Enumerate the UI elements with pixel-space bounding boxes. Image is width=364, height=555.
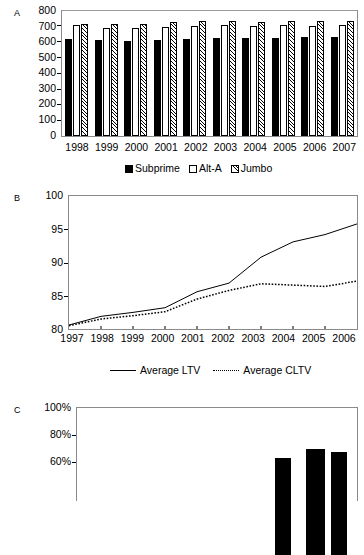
- panel-a-xtick-2006: 2006: [300, 142, 330, 153]
- panel-b-xtick-2000: 2000: [148, 333, 178, 344]
- bar-jumbo: [140, 24, 147, 136]
- panel-b-plot-area: [68, 195, 358, 330]
- panel-a-xtick-1998: 1998: [62, 142, 92, 153]
- bar-alt-a: [132, 28, 139, 136]
- panel-a-ytick-0: 0: [20, 130, 56, 141]
- panel-a-xtick-2007: 2007: [329, 142, 359, 153]
- bar-subprime: [183, 39, 190, 136]
- bar-subprime: [301, 37, 308, 136]
- legend-label-alt-a: Alt-A: [199, 163, 222, 174]
- panel-a-xtick-1999: 1999: [92, 142, 122, 153]
- panel-c-ytick-60: 60%: [32, 456, 71, 467]
- panel-b-ytick-100: 100: [26, 190, 63, 201]
- bar-alt-a: [191, 26, 198, 136]
- panel-b-line-chart: [69, 196, 357, 329]
- bar-alt-a: [280, 25, 287, 136]
- solid-line-icon: [110, 370, 136, 371]
- dotted-line-icon: [213, 370, 239, 371]
- panel-c-bars: [77, 408, 357, 501]
- panel-c-bar: [275, 458, 291, 555]
- panel-a-ytick-400: 400: [20, 67, 56, 78]
- bar-jumbo: [347, 21, 354, 136]
- panel-a-bars: [62, 11, 357, 136]
- bar-subprime: [95, 40, 102, 136]
- panel-b-xtick-1997: 1997: [57, 333, 87, 344]
- bar-alt-a: [221, 25, 228, 136]
- panel-a-xtick-2002: 2002: [181, 142, 211, 153]
- panel-c-bar: [331, 452, 347, 555]
- panel-a-ytick-500: 500: [20, 52, 56, 63]
- bar-alt-a: [103, 28, 110, 136]
- panel-b-xtick-2003: 2003: [238, 333, 268, 344]
- panel-a-legend: Subprime Alt-A Jumbo: [125, 163, 272, 174]
- legend-label-average-ltv: Average LTV: [140, 365, 200, 376]
- bar-jumbo: [199, 21, 206, 136]
- bar-jumbo: [81, 24, 88, 137]
- panel-c-letter: C: [14, 406, 21, 415]
- panel-a-ytick-100: 100: [20, 114, 56, 125]
- bar-jumbo: [258, 22, 265, 136]
- bar-subprime: [242, 38, 249, 136]
- panel-a-ytick-700: 700: [20, 21, 56, 32]
- panel-b-xtick-2006: 2006: [329, 333, 359, 344]
- panel-b-ytick-95: 95: [26, 224, 63, 235]
- legend-item-alt-a[interactable]: Alt-A: [189, 163, 222, 174]
- bar-alt-a: [250, 26, 257, 136]
- panel-b-xtick-2005: 2005: [299, 333, 329, 344]
- panel-b-xtick-2004: 2004: [268, 333, 298, 344]
- legend-label-jumbo: Jumbo: [241, 163, 273, 174]
- bar-jumbo: [317, 21, 324, 136]
- panel-c-ytick-80: 80%: [32, 429, 71, 440]
- bar-jumbo: [288, 21, 295, 136]
- legend-item-subprime[interactable]: Subprime: [125, 163, 180, 174]
- panel-b-ytick-90: 90: [26, 257, 63, 268]
- panel-b-xtick-2002: 2002: [208, 333, 238, 344]
- bar-subprime: [331, 37, 338, 136]
- bar-subprime: [154, 40, 161, 136]
- panel-a-xtick-2001: 2001: [151, 142, 181, 153]
- bar-alt-a: [339, 25, 346, 136]
- bar-alt-a: [73, 25, 80, 136]
- bar-jumbo: [229, 21, 236, 136]
- panel-a-ytick-300: 300: [20, 83, 56, 94]
- open-square-icon: [189, 165, 197, 173]
- panel-a-ytick-600: 600: [20, 36, 56, 47]
- legend-item-average-ltv[interactable]: Average LTV: [110, 365, 200, 376]
- hatched-square-icon: [231, 165, 239, 173]
- line-average-ltv: [69, 224, 357, 325]
- panel-b-xtick-1998: 1998: [87, 333, 117, 344]
- panel-b-xtick-2001: 2001: [178, 333, 208, 344]
- bar-jumbo: [170, 22, 177, 136]
- panel-b-ytick-85: 85: [26, 291, 63, 302]
- panel-b-letter: B: [14, 194, 20, 203]
- legend-label-subprime: Subprime: [135, 163, 180, 174]
- bar-subprime: [213, 38, 220, 136]
- bar-subprime: [272, 38, 279, 136]
- panel-a-ytick-800: 800: [20, 5, 56, 16]
- legend-label-average-cltv: Average CLTV: [243, 365, 311, 376]
- legend-item-jumbo[interactable]: Jumbo: [231, 163, 273, 174]
- panel-c-bar: [306, 449, 325, 555]
- panel-b-legend: Average LTV Average CLTV: [110, 365, 311, 376]
- panel-a-xtick-2005: 2005: [270, 142, 300, 153]
- legend-item-average-cltv[interactable]: Average CLTV: [213, 365, 311, 376]
- panel-c-ytick-100: 100%: [32, 402, 71, 413]
- panel-a-xtick-2004: 2004: [240, 142, 270, 153]
- panel-a: A 800 700 600 500 400 300 200 100 0 1998…: [0, 0, 364, 180]
- panel-c-plot-area: [76, 407, 358, 501]
- bar-alt-a: [162, 27, 169, 136]
- panel-b-xtick-1999: 1999: [117, 333, 147, 344]
- bar-jumbo: [111, 24, 118, 136]
- bar-alt-a: [309, 26, 316, 136]
- panel-a-ytick-200: 200: [20, 98, 56, 109]
- panel-c: C 100% 80% 60%: [0, 388, 364, 501]
- panel-a-plot-area: [61, 10, 358, 137]
- solid-square-icon: [125, 165, 133, 173]
- panel-b: B 100 95 90 85 80 1997 1998 1999 2000 20…: [0, 180, 364, 388]
- bar-subprime: [124, 41, 131, 136]
- panel-a-xtick-2003: 2003: [211, 142, 241, 153]
- bar-subprime: [65, 39, 72, 136]
- panel-a-xtick-2000: 2000: [121, 142, 151, 153]
